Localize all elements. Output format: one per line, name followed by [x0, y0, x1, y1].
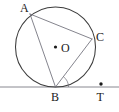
point-label-t: T	[97, 90, 105, 104]
center-point-o-dot	[54, 45, 57, 48]
center-label-o: O	[61, 41, 70, 55]
point-t-dot	[99, 82, 102, 85]
vertex-label-b: B	[51, 90, 59, 104]
segment-ab	[30, 14, 56, 87]
geometry-figure: A C O B T	[0, 0, 119, 112]
vertex-label-a: A	[20, 1, 29, 15]
figure-canvas: A C O B T	[0, 0, 119, 112]
vertex-label-c: C	[96, 30, 104, 44]
